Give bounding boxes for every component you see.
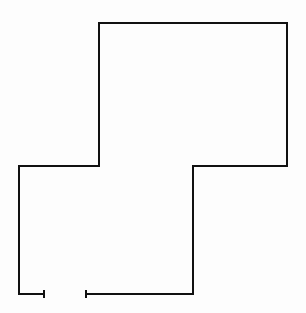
diagram-canvas [0,0,306,313]
floor-plan-svg [0,0,306,313]
wall-outline [19,23,287,294]
